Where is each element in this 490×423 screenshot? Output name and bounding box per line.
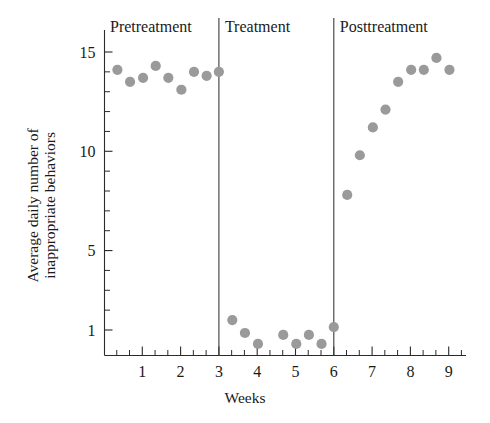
data-point (355, 150, 365, 160)
x-tick-label: 1 (138, 363, 146, 380)
data-point (316, 339, 326, 349)
data-point (163, 73, 173, 83)
y-tick-label: 10 (80, 143, 96, 160)
data-point-group (112, 53, 454, 349)
data-point (304, 330, 314, 340)
data-point (329, 322, 339, 332)
x-tick-label: 7 (368, 363, 376, 380)
tick-label-group: 151015123456789 (80, 44, 453, 380)
data-point (189, 67, 199, 77)
data-point (138, 73, 148, 83)
y-tick-label: 5 (88, 242, 96, 259)
x-tick-label: 2 (177, 363, 185, 380)
data-point (214, 67, 224, 77)
data-point (227, 315, 237, 325)
chart-figure: Pretreatment Treatment Posttreatment Ave… (0, 0, 490, 423)
data-point (368, 122, 378, 132)
data-point (240, 328, 250, 338)
x-tick-label: 8 (406, 363, 414, 380)
data-point (291, 339, 301, 349)
data-point (444, 65, 454, 75)
axes-group (105, 30, 467, 356)
data-point (202, 71, 212, 81)
data-point (342, 190, 352, 200)
x-tick-label: 3 (215, 363, 223, 380)
data-point (151, 61, 161, 71)
x-tick-label: 9 (445, 363, 453, 380)
scatter-plot: 151015123456789 (0, 0, 490, 423)
data-point (406, 65, 416, 75)
data-point (176, 85, 186, 95)
data-point (380, 104, 390, 114)
data-point (431, 53, 441, 63)
data-point (125, 77, 135, 87)
data-point (419, 65, 429, 75)
data-point (253, 339, 263, 349)
x-tick-label: 5 (292, 363, 300, 380)
data-point (278, 330, 288, 340)
data-point (112, 65, 122, 75)
tick-group (105, 52, 462, 356)
data-point (393, 77, 403, 87)
x-tick-label: 4 (253, 363, 261, 380)
y-tick-label: 15 (80, 44, 96, 61)
phase-divider-group (219, 18, 334, 356)
y-tick-label: 1 (88, 322, 96, 339)
x-tick-label: 6 (330, 363, 338, 380)
